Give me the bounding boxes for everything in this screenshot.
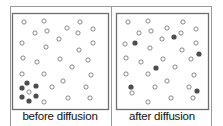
diffusion-diagram: before diffusion after diffusion: [0, 0, 223, 126]
filled-particle: [33, 83, 38, 88]
open-particle: [189, 57, 193, 61]
open-particle: [91, 41, 95, 45]
open-particle: [192, 73, 196, 77]
open-particle: [91, 27, 95, 31]
open-particle: [180, 48, 184, 52]
open-particle: [149, 29, 153, 33]
open-particle: [165, 79, 169, 83]
open-particle: [153, 85, 157, 89]
filled-particle: [132, 40, 137, 45]
open-particle: [78, 20, 82, 24]
filled-particle: [196, 51, 201, 56]
open-particle: [89, 73, 93, 77]
open-particle: [20, 72, 24, 76]
after-diffusion-label: after diffusion: [116, 110, 208, 122]
open-particle: [187, 85, 191, 89]
open-particle: [146, 19, 150, 23]
open-particle: [124, 72, 128, 76]
filled-particle: [26, 98, 31, 103]
open-particle: [65, 26, 69, 30]
filled-particle: [33, 93, 38, 98]
open-particle: [21, 56, 25, 60]
open-particle: [42, 100, 46, 104]
open-particle: [123, 42, 127, 46]
filled-particle: [128, 84, 133, 89]
open-particle: [124, 56, 128, 60]
open-particle: [44, 45, 48, 49]
open-particle: [50, 85, 54, 89]
open-particle: [57, 37, 61, 41]
filled-particle: [19, 94, 24, 99]
open-particle: [42, 19, 46, 23]
open-particle: [58, 57, 62, 61]
before-diffusion-label: before diffusion: [12, 110, 108, 122]
after-diffusion-panel: [117, 14, 209, 110]
open-particle: [148, 46, 152, 50]
open-particle: [88, 96, 92, 100]
open-particle: [146, 100, 150, 104]
open-particle: [181, 20, 185, 24]
open-particle: [86, 58, 90, 62]
open-particle: [137, 31, 141, 35]
open-particle: [139, 60, 143, 64]
open-particle: [33, 31, 37, 35]
before-diffusion-panel: [13, 14, 109, 110]
open-particle: [35, 60, 39, 64]
open-particle: [42, 72, 46, 76]
open-particle: [22, 20, 26, 24]
filled-particle: [153, 65, 158, 70]
filled-particle: [19, 85, 24, 90]
open-particle: [77, 48, 81, 52]
open-particle: [45, 29, 49, 33]
filled-particle: [171, 34, 176, 39]
open-particle: [76, 31, 80, 35]
open-particle: [173, 65, 177, 69]
open-particle: [61, 79, 65, 83]
open-particle: [70, 65, 74, 69]
open-particle: [146, 72, 150, 76]
open-particle: [194, 27, 198, 31]
open-particle: [126, 20, 130, 24]
open-particle: [20, 41, 24, 45]
open-particle: [191, 96, 195, 100]
filled-particle: [194, 88, 199, 93]
open-particle: [165, 26, 169, 30]
open-particle: [130, 91, 134, 95]
open-particle: [194, 41, 198, 45]
open-particle: [84, 85, 88, 89]
open-particle: [66, 96, 70, 100]
diagram-canvas: [0, 0, 223, 126]
open-particle: [161, 57, 165, 61]
open-particle: [27, 90, 31, 94]
open-particle: [169, 96, 173, 100]
open-particle: [179, 31, 183, 35]
filled-particle: [24, 80, 29, 85]
open-particle: [160, 37, 164, 41]
